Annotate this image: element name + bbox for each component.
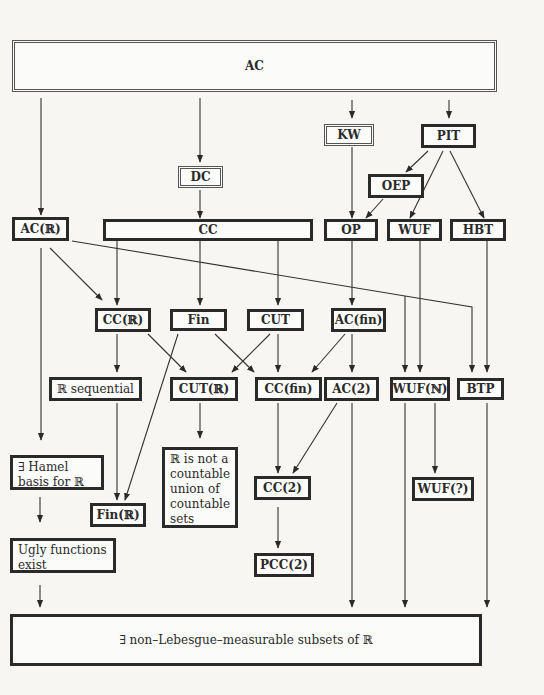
node-fin-label: Fin <box>188 313 210 327</box>
node-hbt: HBT <box>450 219 506 241</box>
edge-acfin-ccfin <box>312 334 345 372</box>
node-pcc-2: PCC(2) <box>254 553 314 577</box>
node-cut-r-label: CUT(ℝ) <box>179 382 229 396</box>
node-cut-r: CUT(ℝ) <box>170 377 238 401</box>
node-non-measurable-label: ∃ non–Lebesgue–measurable subsets of ℝ <box>119 633 372 647</box>
node-cc-r: CC(ℝ) <box>95 308 151 332</box>
edge-pit-hbt <box>450 151 484 218</box>
node-wuf-q-label: WUF(?) <box>418 482 469 496</box>
edge-ccr-cutr <box>148 334 186 372</box>
node-cc-fin-label: CC(fin) <box>265 382 313 396</box>
node-pit-label: PIT <box>437 129 461 143</box>
node-wuf-n-label: WUF(ℕ) <box>393 382 448 396</box>
node-hamel-label: ∃ Hamel basis for ℝ <box>18 460 96 490</box>
node-cut: CUT <box>247 309 304 331</box>
node-op-label: OP <box>341 223 360 237</box>
node-fin: Fin <box>170 309 227 331</box>
node-r-sequential: ℝ sequential <box>49 377 142 401</box>
node-btp: BTP <box>457 378 504 400</box>
node-r-not-countable-union: ℝ is not a countable union of countable … <box>162 447 238 528</box>
node-cc-2-label: CC(2) <box>263 481 302 495</box>
node-ugly-label: Ugly functions exist <box>18 543 108 573</box>
edge-oep-op <box>366 199 383 218</box>
node-dc: DC <box>178 166 223 188</box>
node-oep: OEP <box>368 174 424 198</box>
node-op: OP <box>324 219 378 241</box>
edge-pit-oep <box>406 151 428 172</box>
node-dc-label: DC <box>191 170 211 184</box>
node-r-not-countable-union-label: ℝ is not a countable union of countable … <box>170 452 230 527</box>
node-wuf-q: WUF(?) <box>412 477 474 501</box>
node-kw-label: KW <box>337 128 360 142</box>
node-ac-r-label: AC(ℝ) <box>20 222 60 236</box>
edge-cut-cutr <box>232 334 270 372</box>
node-ac-fin: AC(fin) <box>331 308 386 332</box>
node-ugly: Ugly functions exist <box>10 538 116 573</box>
node-wuf: WUF <box>387 219 442 241</box>
node-ac-label: AC <box>245 59 264 73</box>
node-cc-label: CC <box>198 223 217 237</box>
node-ac-r: AC(ℝ) <box>12 217 69 241</box>
node-fin-r-label: Fin(ℝ) <box>96 508 139 522</box>
node-cc: CC <box>103 219 313 241</box>
node-hbt-label: HBT <box>463 223 493 237</box>
edge-acr-ccr <box>50 248 102 300</box>
node-oep-label: OEP <box>382 179 411 193</box>
node-hamel: ∃ Hamel basis for ℝ <box>10 455 104 490</box>
node-r-sequential-label: ℝ sequential <box>57 382 134 396</box>
node-ac-2-label: AC(2) <box>332 382 371 396</box>
edge-ac2-cc2 <box>293 403 337 473</box>
node-ac-fin-label: AC(fin) <box>335 313 383 327</box>
node-btp-label: BTP <box>466 382 494 396</box>
node-cut-label: CUT <box>261 313 290 327</box>
node-kw: KW <box>324 124 374 146</box>
edge-acr-btp <box>72 241 472 372</box>
node-fin-r: Fin(ℝ) <box>90 503 146 527</box>
node-wuf-label: WUF <box>398 223 430 237</box>
edge-fin-ccfin <box>215 334 254 372</box>
node-wuf-n: WUF(ℕ) <box>390 377 450 401</box>
node-cc-fin: CC(fin) <box>255 377 322 401</box>
node-cc-2: CC(2) <box>254 476 311 500</box>
node-cc-r-label: CC(ℝ) <box>103 313 143 327</box>
node-ac: AC <box>12 40 497 92</box>
node-pit: PIT <box>421 124 476 148</box>
node-non-measurable: ∃ non–Lebesgue–measurable subsets of ℝ <box>10 614 482 666</box>
node-ac-2: AC(2) <box>324 377 379 401</box>
node-pcc-2-label: PCC(2) <box>260 558 308 572</box>
edge-layer <box>0 0 544 695</box>
